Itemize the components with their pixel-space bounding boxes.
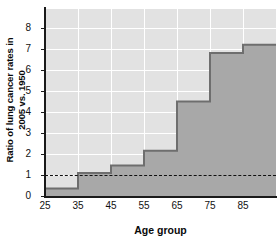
y-axis-tick-label: 3 — [7, 128, 31, 138]
y-axis-tick-mark — [41, 70, 45, 71]
x-axis-line — [44, 196, 277, 198]
x-axis-title: Age group — [45, 224, 276, 236]
x-axis-tick-label: 75 — [198, 200, 222, 211]
y-axis-title: Ratio of lung cancer rates in 2005 vs. 1… — [4, 38, 27, 163]
x-axis-tick-label: 85 — [231, 200, 255, 211]
x-axis-tick-label: 65 — [165, 200, 189, 211]
y-axis-tick-mark — [41, 49, 45, 50]
y-axis-tick-mark — [41, 28, 45, 29]
plot-area — [45, 9, 276, 196]
y-axis-title-line-1: Ratio of lung cancer rates in — [4, 38, 15, 163]
y-axis-tick-mark — [41, 196, 45, 197]
y-axis-tick-mark — [41, 91, 45, 92]
y-axis-line — [44, 7, 46, 198]
reference-line-ratio-1 — [45, 175, 276, 176]
y-axis-tick-label: 0 — [7, 191, 31, 201]
y-axis-tick-label: 6 — [7, 65, 31, 75]
x-axis-tick-label: 25 — [33, 200, 57, 211]
chart-figure: Ratio of lung cancer rates in 2005 vs. 1… — [0, 0, 280, 246]
x-axis-tick-label: 55 — [132, 200, 156, 211]
y-axis-title-line-2: 2005 vs. 1950 — [15, 38, 27, 163]
y-axis-tick-mark — [41, 112, 45, 113]
x-axis-tick-label: 35 — [66, 200, 90, 211]
y-axis-tick-label: 1 — [7, 170, 31, 180]
y-axis-tick-mark — [41, 133, 45, 134]
step-area-series — [45, 9, 276, 196]
y-axis-tick-label: 8 — [7, 23, 31, 33]
y-axis-tick-label: 5 — [7, 86, 31, 96]
x-axis-tick-label: 45 — [99, 200, 123, 211]
y-axis-tick-label: 2 — [7, 149, 31, 159]
y-axis-tick-label: 4 — [7, 107, 31, 117]
y-axis-tick-mark — [41, 154, 45, 155]
y-axis-tick-label: 7 — [7, 44, 31, 54]
